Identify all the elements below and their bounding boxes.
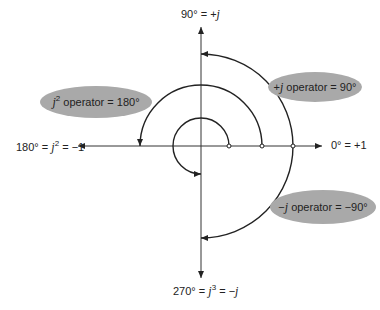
plus-j-arc xyxy=(201,54,293,146)
start-point-middle xyxy=(260,144,264,148)
start-point-outer xyxy=(291,144,295,148)
plus-j-operator-oval: +j operator = 90° xyxy=(268,72,362,102)
j-squared-operator-label: j2 operator = 180° xyxy=(52,94,139,110)
j-operator-diagram xyxy=(0,0,380,310)
plus-j-operator-label: +j operator = 90° xyxy=(274,80,357,95)
minus-j-operator-oval: −j operator = −90° xyxy=(270,190,376,224)
label-0-deg: 0° = +1 xyxy=(331,139,367,151)
j-squared-operator-oval: j2 operator = 180° xyxy=(40,86,152,118)
start-point-small xyxy=(227,144,231,148)
label-270-deg: 270° = j3 = −j xyxy=(173,283,238,299)
label-180-deg: 180° = j2 = −1 xyxy=(16,139,84,155)
label-90-deg: 90° = +j xyxy=(181,7,220,22)
minus-j-operator-label: −j operator = −90° xyxy=(278,200,367,215)
minus-j-arc xyxy=(201,146,293,238)
